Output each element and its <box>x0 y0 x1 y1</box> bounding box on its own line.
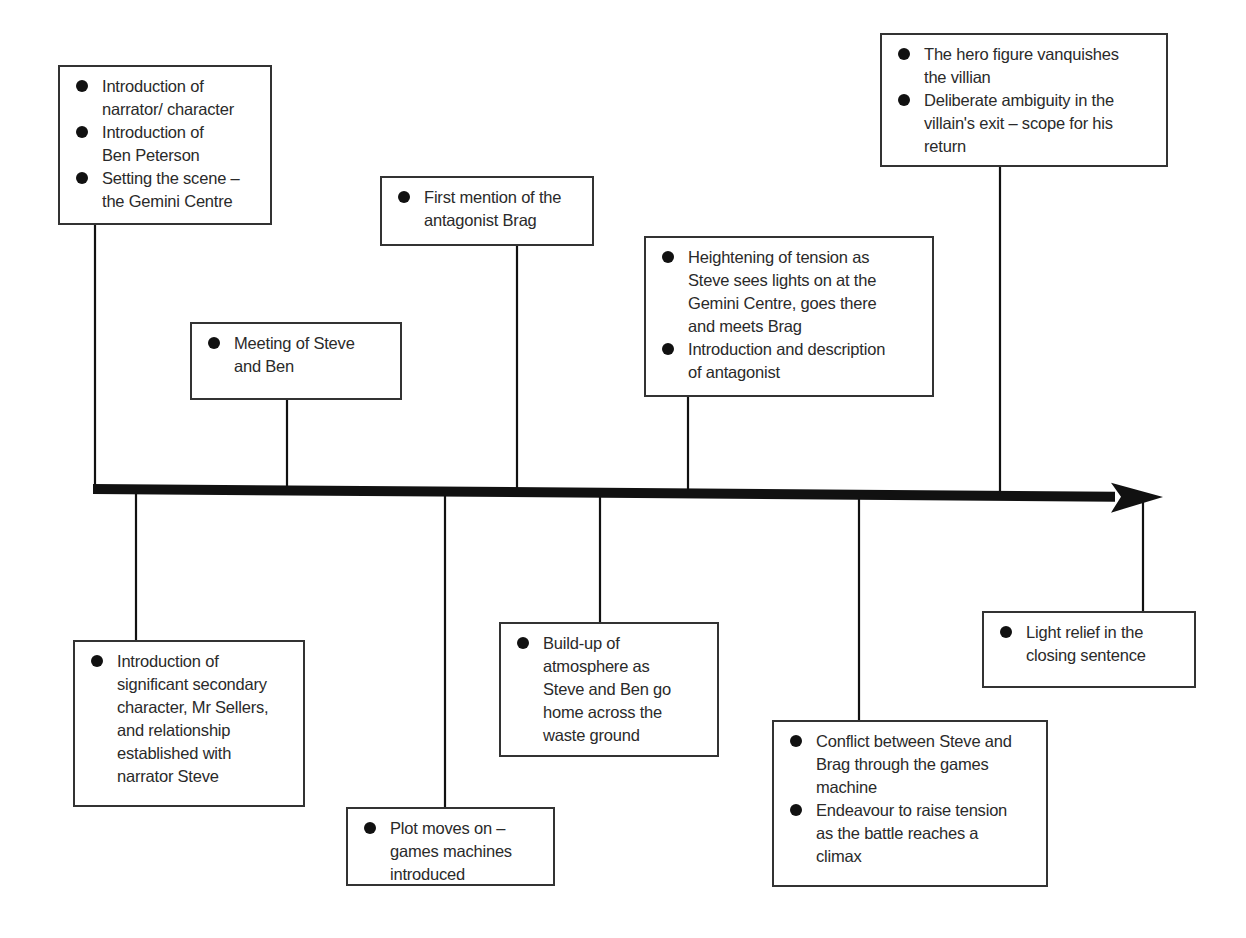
bullet-icon <box>662 251 674 263</box>
event-box-e3: Meeting of Steveand Ben <box>190 322 402 400</box>
bullet-icon <box>76 80 88 92</box>
bullet-text-line: Introduction and description <box>688 338 922 361</box>
bullet-item: First mention of theantagonist Brag <box>392 186 582 232</box>
bullet-icon <box>76 172 88 184</box>
bullet-text-line: return <box>924 135 1156 158</box>
bullet-icon <box>398 191 410 203</box>
bullet-icon <box>898 94 910 106</box>
bullet-text-line: and relationship <box>117 719 293 742</box>
event-box-e1: Introduction ofnarrator/ characterIntrod… <box>58 65 272 225</box>
event-box-e6: Build-up ofatmosphere asSteve and Ben go… <box>499 622 719 757</box>
bullet-text-line: First mention of the <box>424 186 582 209</box>
bullet-item: Plot moves on –games machinesintroduced <box>358 817 543 886</box>
bullet-text-line: narrator/ character <box>102 98 260 121</box>
bullet-text-line: games machines <box>390 840 543 863</box>
bullet-list: Plot moves on –games machinesintroduced <box>358 817 543 886</box>
bullet-list: Introduction ofnarrator/ characterIntrod… <box>70 75 260 213</box>
bullet-text-line: character, Mr Sellers, <box>117 696 293 719</box>
bullet-text-line: Introduction of <box>102 121 260 144</box>
bullet-text-line: introduced <box>390 863 543 886</box>
bullet-icon <box>1000 626 1012 638</box>
bullet-list: Meeting of Steveand Ben <box>202 332 390 378</box>
bullet-list: Build-up ofatmosphere asSteve and Ben go… <box>511 632 707 747</box>
bullet-text-line: established with <box>117 742 293 765</box>
bullet-text-line: atmosphere as <box>543 655 707 678</box>
bullet-text-line: Setting the scene – <box>102 167 260 190</box>
event-box-e7: Heightening of tension asSteve sees ligh… <box>644 236 934 397</box>
bullet-item: The hero figure vanquishesthe villian <box>892 43 1156 89</box>
event-box-e5: First mention of theantagonist Brag <box>380 176 594 246</box>
bullet-item: Meeting of Steveand Ben <box>202 332 390 378</box>
story-timeline-diagram: Introduction ofnarrator/ characterIntrod… <box>0 0 1246 938</box>
bullet-text-line: Heightening of tension as <box>688 246 922 269</box>
bullet-text-line: Light relief in the <box>1026 621 1184 644</box>
bullet-text-line: waste ground <box>543 724 707 747</box>
bullet-text-line: climax <box>816 845 1036 868</box>
bullet-icon <box>790 804 802 816</box>
bullet-text-line: Ben Peterson <box>102 144 260 167</box>
bullet-item: Introduction ofnarrator/ character <box>70 75 260 121</box>
bullet-text-line: closing sentence <box>1026 644 1184 667</box>
bullet-icon <box>208 337 220 349</box>
event-box-e8: Conflict between Steve andBrag through t… <box>772 720 1048 887</box>
bullet-text-line: Plot moves on – <box>390 817 543 840</box>
bullet-text-line: Build-up of <box>543 632 707 655</box>
bullet-text-line: Brag through the games <box>816 753 1036 776</box>
bullet-icon <box>790 735 802 747</box>
bullet-item: Heightening of tension asSteve sees ligh… <box>656 246 922 338</box>
bullet-text-line: Endeavour to raise tension <box>816 799 1036 822</box>
bullet-item: Introduction ofBen Peterson <box>70 121 260 167</box>
event-box-e9: The hero figure vanquishesthe villianDel… <box>880 33 1168 167</box>
bullet-item: Introduction ofsignificant secondarychar… <box>85 650 293 788</box>
timeline-axis <box>93 484 1115 502</box>
arrow-head-icon <box>1111 483 1163 513</box>
bullet-text-line: Introduction of <box>117 650 293 673</box>
bullet-text-line: Introduction of <box>102 75 260 98</box>
event-box-e10: Light relief in theclosing sentence <box>982 611 1196 688</box>
bullet-icon <box>517 637 529 649</box>
bullet-text-line: as the battle reaches a <box>816 822 1036 845</box>
bullet-text-line: the Gemini Centre <box>102 190 260 213</box>
bullet-text-line: significant secondary <box>117 673 293 696</box>
bullet-list: Light relief in theclosing sentence <box>994 621 1184 667</box>
bullet-list: Conflict between Steve andBrag through t… <box>784 730 1036 868</box>
bullet-text-line: and meets Brag <box>688 315 922 338</box>
bullet-text-line: antagonist Brag <box>424 209 582 232</box>
bullet-icon <box>662 343 674 355</box>
bullet-text-line: Steve sees lights on at the <box>688 269 922 292</box>
bullet-text-line: home across the <box>543 701 707 724</box>
bullet-text-line: the villian <box>924 66 1156 89</box>
bullet-text-line: Deliberate ambiguity in the <box>924 89 1156 112</box>
bullet-text-line: The hero figure vanquishes <box>924 43 1156 66</box>
bullet-text-line: Conflict between Steve and <box>816 730 1036 753</box>
event-box-e4: Plot moves on –games machinesintroduced <box>346 807 555 886</box>
bullet-item: Build-up ofatmosphere asSteve and Ben go… <box>511 632 707 747</box>
bullet-item: Endeavour to raise tensionas the battle … <box>784 799 1036 868</box>
bullet-list: Heightening of tension asSteve sees ligh… <box>656 246 922 384</box>
bullet-text-line: of antagonist <box>688 361 922 384</box>
bullet-item: Setting the scene –the Gemini Centre <box>70 167 260 213</box>
bullet-text-line: machine <box>816 776 1036 799</box>
bullet-list: First mention of theantagonist Brag <box>392 186 582 232</box>
bullet-text-line: Gemini Centre, goes there <box>688 292 922 315</box>
bullet-text-line: Steve and Ben go <box>543 678 707 701</box>
bullet-item: Introduction and descriptionof antagonis… <box>656 338 922 384</box>
bullet-icon <box>898 48 910 60</box>
bullet-text-line: villain's exit – scope for his <box>924 112 1156 135</box>
bullet-icon <box>91 655 103 667</box>
event-box-e2: Introduction ofsignificant secondarychar… <box>73 640 305 807</box>
bullet-text-line: narrator Steve <box>117 765 293 788</box>
bullet-icon <box>364 822 376 834</box>
bullet-text-line: and Ben <box>234 355 390 378</box>
bullet-text-line: Meeting of Steve <box>234 332 390 355</box>
bullet-item: Deliberate ambiguity in thevillain's exi… <box>892 89 1156 158</box>
bullet-list: The hero figure vanquishesthe villianDel… <box>892 43 1156 158</box>
bullet-item: Light relief in theclosing sentence <box>994 621 1184 667</box>
bullet-list: Introduction ofsignificant secondarychar… <box>85 650 293 788</box>
bullet-icon <box>76 126 88 138</box>
bullet-item: Conflict between Steve andBrag through t… <box>784 730 1036 799</box>
